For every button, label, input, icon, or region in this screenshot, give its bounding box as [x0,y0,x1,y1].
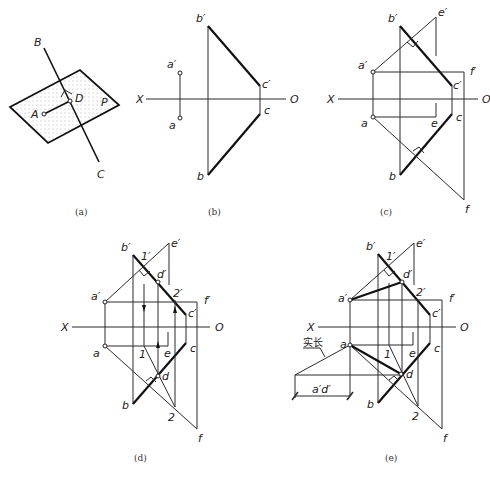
point-a-prime [103,300,107,304]
label-c: c [190,342,196,355]
label-1-prime: 1′ [386,250,396,263]
label-a: a [93,347,100,360]
line-b-prime-c-prime [133,255,186,315]
label-1: 1 [139,348,146,361]
label-d: D [75,92,83,105]
label-2-prime: 2′ [173,287,183,300]
label-e: e [164,347,171,360]
label-o: O [482,93,490,106]
label-a-prime: a′ [167,58,177,71]
panel-d: X O a′ a b′ b e′ e 1′ 1 d′ d [60,237,224,463]
label-d: d [162,370,170,383]
point-a [371,115,375,119]
label-o: O [215,321,224,334]
line-bc [208,114,260,175]
label-2: 2 [412,410,419,423]
label-a: A [30,108,39,121]
label-1-prime: 1′ [141,250,151,263]
line-b-prime-c-prime [208,26,260,86]
point-d [156,374,160,378]
label-c: c [456,111,462,124]
line-af [350,345,442,429]
label-d-prime: d′ [157,268,167,281]
point-d [68,99,72,103]
label-f: f [465,203,471,216]
point-a [103,344,107,348]
label-f-prime: f′ [449,292,456,305]
caption-e: (e) [385,453,397,463]
label-b-prime: b′ [121,241,131,254]
label-2-prime: 2′ [416,286,426,299]
label-f: f [443,432,449,445]
line-af [373,117,464,200]
panel-b: X O a′ a b′ b c′ c (b) [135,12,299,217]
label-c: C [97,168,105,181]
point-a [178,116,182,120]
label-b: b [389,170,396,183]
label-f: f [198,432,204,445]
label-c-prime: c′ [432,307,441,320]
label-c-prime: c′ [188,307,197,320]
label-f-prime: f′ [204,294,211,307]
label-f-prime: f′ [470,65,477,78]
caption-b: (b) [208,207,221,217]
point-a-prime [371,70,375,74]
label-dimension: a′d′ [312,383,331,396]
label-a-prime: a′ [358,59,368,72]
projection-diagram: B C A D P (a) X O a′ a b′ b c′ c (b) X O [0,0,490,478]
label-b: b [122,399,129,412]
label-a: a [361,117,368,130]
label-e-prime: e′ [438,6,448,19]
label-o: O [460,321,469,334]
caption-c: (c) [380,207,392,217]
label-b-prime: b′ [366,240,376,253]
label-c: c [434,342,440,355]
label-a: a [340,338,347,351]
arrow-up-icon [173,306,177,313]
label-d: d [406,368,414,381]
line-af [105,346,197,429]
label-x: X [60,321,69,334]
label-e: e [431,117,438,130]
panel-a: B C A D P (a) [10,36,119,217]
label-true-length: 实长 [303,336,323,348]
label-b: b [367,398,374,411]
caption-a: (a) [75,207,87,217]
label-b: b [197,170,204,183]
line-b-prime-c-prime [400,26,452,86]
label-e-prime: e′ [416,237,426,250]
line-a-prime-d-prime [350,282,402,300]
point-d [399,372,403,376]
line-ad [350,345,401,374]
point-a [42,112,46,116]
caption-d: (d) [134,453,147,463]
label-1: 1 [384,348,391,361]
arrow-up-icon [156,341,160,348]
label-x: X [326,93,335,106]
label-c: c [264,104,270,117]
label-2: 2 [168,411,175,424]
panel-c: X O a′ a b′ b e′ e f′ f c′ c (c) [326,6,490,217]
line-b-prime-c-prime [378,254,430,315]
arrow-down-icon [142,305,146,312]
label-c-prime: c′ [262,78,271,91]
label-x: X [306,321,315,334]
label-x: X [135,93,144,106]
label-c-prime: c′ [453,79,462,92]
label-p: P [101,96,108,109]
point-a-prime [348,298,352,302]
leader-line [320,348,325,357]
label-a-prime: a′ [91,290,101,303]
label-e: e [409,347,416,360]
label-b: B [34,36,42,49]
point-a-prime [178,71,182,75]
label-a: a [169,119,176,132]
label-a-prime: a′ [338,292,348,305]
panel-e: X O 实长 a′d′ a′ a [292,237,469,463]
line-a-prime-e-prime [373,17,436,72]
label-b-prime: b′ [388,12,398,25]
label-b-prime: b′ [196,12,206,25]
label-d-prime: d′ [403,268,413,281]
point-a [348,343,352,347]
label-o: O [290,93,299,106]
